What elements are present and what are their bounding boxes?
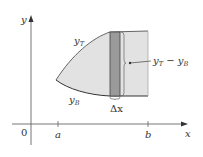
tick-a-label: a (55, 129, 61, 140)
y-axis-label: y (20, 14, 27, 25)
tick-b-label: b (145, 129, 151, 140)
area-between-curves-diagram: y x 0 a b yT yB yT − yB Δx (0, 0, 203, 157)
x-axis-label: x (185, 128, 191, 139)
strip-width-label: Δx (110, 103, 123, 114)
origin-label: 0 (21, 127, 27, 138)
height-pointer-dot (129, 62, 131, 64)
region-between-curves (56, 31, 148, 96)
strip-height-label: yT − yB (152, 55, 188, 68)
top-curve-label: yT (73, 35, 85, 48)
width-bracket (110, 97, 120, 100)
y-axis-arrow-icon (29, 15, 34, 22)
approximating-strip (110, 32, 120, 96)
x-axis-arrow-icon (181, 122, 188, 127)
bottom-curve-label: yB (68, 94, 80, 107)
